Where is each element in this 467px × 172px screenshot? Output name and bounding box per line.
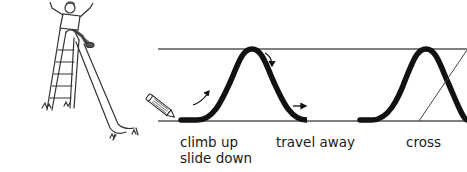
climb-slide-stroke: [181, 49, 307, 120]
pencil-icon: [145, 93, 176, 119]
label-travel-away: travel away: [276, 134, 355, 151]
label-slide-down: slide down: [180, 150, 252, 167]
arrow-right-icon: [293, 104, 306, 109]
label-climb-up: climb up: [180, 134, 238, 151]
child-figure: [50, 2, 94, 48]
label-cross: cross: [406, 134, 441, 151]
cross-stroke: [360, 49, 467, 120]
curved-arrow-up-icon: [193, 91, 209, 105]
